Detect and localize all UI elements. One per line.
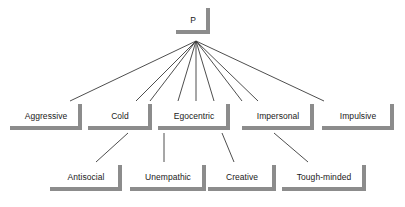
node-creative[interactable]: Creative <box>208 165 276 191</box>
node-impulsive-shadow-bottom <box>322 126 394 130</box>
node-tough-minded[interactable]: Tough-minded <box>282 165 366 191</box>
node-creative-label: Creative <box>226 173 258 183</box>
edge-p-to-cold-right <box>150 41 196 101</box>
node-aggressive[interactable]: Aggressive <box>10 104 82 130</box>
edge-p-to-impulsive <box>196 41 324 101</box>
node-cold-shadow-bottom <box>88 126 152 130</box>
node-antisocial[interactable]: Antisocial <box>50 165 122 191</box>
node-p-shadow-right <box>206 8 210 30</box>
node-egocentric[interactable]: Egocentric <box>158 104 230 130</box>
node-creative-shadow-bottom <box>208 187 276 191</box>
edge-impersonal-to-toughminded <box>274 133 308 162</box>
edge-p-to-imp-right <box>196 41 258 101</box>
node-antisocial-label: Antisocial <box>68 173 105 183</box>
node-cold-shadow-right <box>148 104 152 126</box>
node-impersonal-shadow-right <box>310 104 314 126</box>
node-egocentric-shadow-right <box>226 104 230 126</box>
edge-p-to-ego-left <box>178 41 196 101</box>
node-p-shadow-bottom <box>176 30 210 34</box>
edge-p-to-aggressive <box>70 41 196 101</box>
node-cold-label: Cold <box>111 112 129 122</box>
node-tough-minded-shadow-bottom <box>282 187 366 191</box>
node-aggressive-label: Aggressive <box>25 112 68 122</box>
node-unempathic-shadow-bottom <box>130 187 206 191</box>
node-cold[interactable]: Cold <box>88 104 152 130</box>
edge-p-to-imp-left <box>196 41 242 101</box>
edges-group <box>70 41 324 162</box>
node-unempathic-shadow-right <box>202 165 206 187</box>
edge-p-to-ego-right <box>196 41 214 101</box>
node-aggressive-shadow-right <box>78 104 82 126</box>
node-impersonal[interactable]: Impersonal <box>242 104 314 130</box>
edge-cold-to-antisocial <box>96 133 128 162</box>
node-antisocial-shadow-right <box>118 165 122 187</box>
node-impulsive-shadow-right <box>390 104 394 126</box>
node-unempathic-label: Unempathic <box>145 173 191 183</box>
node-egocentric-label: Egocentric <box>174 112 215 122</box>
node-impulsive-label: Impulsive <box>340 112 376 122</box>
node-tough-minded-label: Tough-minded <box>297 173 351 183</box>
hierarchy-diagram: P Aggressive Cold Egocentric Impersonal … <box>0 0 405 207</box>
node-impersonal-shadow-bottom <box>242 126 314 130</box>
node-impersonal-label: Impersonal <box>257 112 300 122</box>
node-aggressive-shadow-bottom <box>10 126 82 130</box>
node-impulsive[interactable]: Impulsive <box>322 104 394 130</box>
node-egocentric-shadow-bottom <box>158 126 230 130</box>
node-p[interactable]: P <box>176 8 210 34</box>
edge-egocentric-to-creative <box>222 133 234 162</box>
node-antisocial-shadow-bottom <box>50 187 122 191</box>
edge-p-to-cold-left <box>136 41 196 101</box>
node-tough-minded-shadow-right <box>362 165 366 187</box>
node-p-label: P <box>190 16 196 26</box>
node-creative-shadow-right <box>272 165 276 187</box>
node-unempathic[interactable]: Unempathic <box>130 165 206 191</box>
